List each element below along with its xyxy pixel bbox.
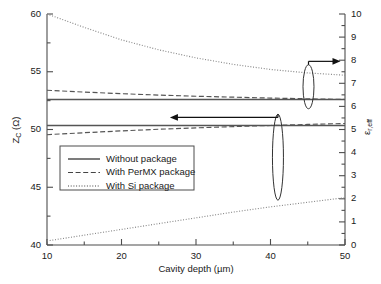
- y-axis-ticks-left: [47, 14, 53, 245]
- y2-tick-label: 7: [351, 77, 356, 88]
- y2-tick-label: 8: [351, 54, 356, 65]
- y2-tick-label: 5: [351, 123, 356, 134]
- axes-frame: [47, 14, 345, 245]
- legend: Without packageWith PerMX packageWith Si…: [60, 146, 195, 191]
- y-tick-label: 55: [30, 65, 41, 76]
- x-axis-ticks: [47, 239, 345, 245]
- x-tick-label: 30: [191, 250, 202, 261]
- chart-canvas: 4045505560 012345678910 1020304050 ZC (Ω…: [0, 0, 381, 284]
- annotation-ellipse-left: [272, 114, 283, 200]
- y2-axis-title-sub: r,eff: [365, 119, 372, 131]
- y-axis-tick-labels-left: 4045505560: [30, 8, 41, 250]
- legend-label-1: With PerMX package: [106, 166, 195, 177]
- x-tick-label: 10: [42, 250, 53, 261]
- legend-label-2: With Si package: [106, 180, 175, 191]
- y2-tick-label: 4: [351, 146, 356, 157]
- annotation-arrowhead-right: [333, 58, 341, 65]
- y2-tick-label: 6: [351, 100, 356, 111]
- legend-label-0: Without package: [106, 153, 177, 164]
- series-line-2: [47, 198, 345, 241]
- x-axis-tick-labels: 1020304050: [42, 250, 351, 261]
- y-axis-title-unit: (Ω): [10, 117, 21, 133]
- y-tick-label: 45: [30, 181, 41, 192]
- y-tick-label: 40: [30, 239, 41, 250]
- y2-tick-label: 10: [351, 8, 362, 19]
- svg-text:ZC (Ω): ZC (Ω): [10, 117, 22, 144]
- y-axis-tick-labels-right: 012345678910: [351, 8, 362, 250]
- x-axis-title-text: Cavity depth (µm): [158, 263, 233, 274]
- y2-tick-label: 0: [351, 239, 356, 250]
- x-axis-title: Cavity depth (µm): [158, 263, 233, 274]
- y-axis-title-left: ZC (Ω): [10, 117, 22, 144]
- x-tick-label: 50: [340, 250, 351, 261]
- chart-figure: 4045505560 012345678910 1020304050 ZC (Ω…: [0, 0, 381, 284]
- y2-tick-label: 2: [351, 192, 356, 203]
- series-line-5: [47, 14, 345, 75]
- y2-tick-label: 3: [351, 169, 356, 180]
- y-tick-label: 50: [30, 123, 41, 134]
- x-tick-label: 40: [265, 250, 276, 261]
- y2-tick-label: 1: [351, 215, 356, 226]
- y2-tick-label: 9: [351, 31, 356, 42]
- y-axis-ticks-right: [339, 14, 345, 245]
- y-tick-label: 60: [30, 8, 41, 19]
- annotation-layer: [170, 58, 341, 200]
- annotation-ellipse-right: [303, 65, 314, 109]
- y-axis-title-right: εr,eff: [361, 119, 373, 135]
- x-tick-label: 20: [116, 250, 127, 261]
- data-series-layer: [47, 14, 345, 241]
- svg-text:εr,eff: εr,eff: [361, 119, 373, 135]
- annotation-arrowhead-left: [170, 114, 178, 121]
- series-line-4: [47, 90, 345, 99]
